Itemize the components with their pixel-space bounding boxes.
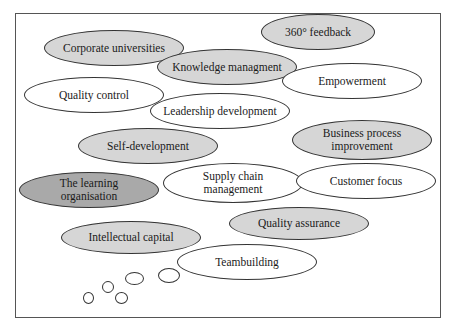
- concept-label: Empowerment: [318, 75, 386, 88]
- thought-bubble: [83, 292, 94, 304]
- concept-ellipse: Knowledge managment: [157, 49, 297, 85]
- concept-label: Supply chain management: [183, 170, 283, 195]
- concept-label: The learning organisation: [39, 177, 139, 202]
- concept-label: Quality assurance: [258, 217, 340, 230]
- concept-ellipse: Supply chain management: [163, 163, 303, 203]
- concept-label: Self-development: [107, 140, 189, 153]
- concept-label: 360° feedback: [285, 26, 351, 39]
- concept-ellipse: Empowerment: [282, 63, 422, 99]
- concept-label: Teambuilding: [215, 256, 279, 269]
- concept-ellipse: Intellectual capital: [61, 221, 201, 254]
- concept-label: Knowledge managment: [172, 61, 282, 74]
- concept-label: Intellectual capital: [88, 231, 173, 244]
- thought-bubble: [102, 281, 114, 293]
- concept-label: Leadership development: [163, 105, 276, 118]
- concept-ellipse: Teambuilding: [177, 244, 317, 280]
- concept-ellipse: Self-development: [78, 128, 218, 164]
- concept-ellipse: The learning organisation: [19, 172, 159, 208]
- concept-label: Business process improvement: [312, 127, 412, 152]
- concept-label: Customer focus: [330, 175, 403, 188]
- concept-label: Corporate universities: [63, 42, 165, 55]
- concept-ellipse: Quality assurance: [229, 207, 369, 240]
- concept-label: Quality control: [59, 89, 129, 102]
- concept-ellipse: Leadership development: [150, 93, 290, 129]
- concept-ellipse: Business process improvement: [292, 120, 432, 160]
- concept-ellipse: 360° feedback: [261, 14, 375, 50]
- thought-bubble: [158, 268, 180, 283]
- thought-bubble: [125, 272, 144, 285]
- concept-ellipse: Customer focus: [296, 163, 436, 199]
- thought-bubble: [115, 292, 128, 304]
- concept-ellipse: Quality control: [24, 77, 164, 113]
